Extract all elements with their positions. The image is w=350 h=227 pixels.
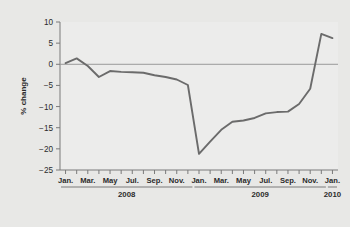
x-tick-label: Jul. — [126, 176, 139, 185]
x-tick-label: Sep. — [280, 176, 296, 185]
x-tick-label: May — [103, 176, 119, 185]
y-tick-label: 5 — [48, 39, 53, 48]
x-tick-label: Nov. — [302, 176, 318, 185]
y-tick-label: −10 — [39, 103, 53, 112]
year-label: 2008 — [118, 190, 136, 199]
x-tick-label: May — [236, 176, 252, 185]
chart-figure: 1050−5−10−15−20−25 Jan.Mar.MayJul.Sep.No… — [0, 0, 350, 227]
y-tick-label: −25 — [39, 166, 53, 175]
y-tick-label: −20 — [39, 145, 53, 154]
line-chart: 1050−5−10−15−20−25 Jan.Mar.MayJul.Sep.No… — [0, 0, 350, 227]
x-tick-label: Sep. — [146, 176, 162, 185]
y-axis-title: % change — [19, 77, 28, 115]
y-tick-label: −5 — [44, 81, 54, 90]
y-tick-label: 10 — [44, 18, 54, 27]
y-tick-label: 0 — [48, 60, 53, 69]
x-tick-label: Jan. — [325, 176, 340, 185]
y-tick-label: −15 — [39, 124, 53, 133]
x-tick-label: Jul. — [259, 176, 272, 185]
year-label: 2009 — [251, 190, 269, 199]
x-tick-label: Mar. — [80, 176, 95, 185]
plot-area-background — [60, 22, 338, 170]
year-label: 2010 — [324, 190, 342, 199]
x-tick-label: Nov. — [169, 176, 185, 185]
x-tick-label: Jan. — [191, 176, 206, 185]
x-tick-label: Mar. — [214, 176, 229, 185]
x-tick-label: Jan. — [58, 176, 73, 185]
